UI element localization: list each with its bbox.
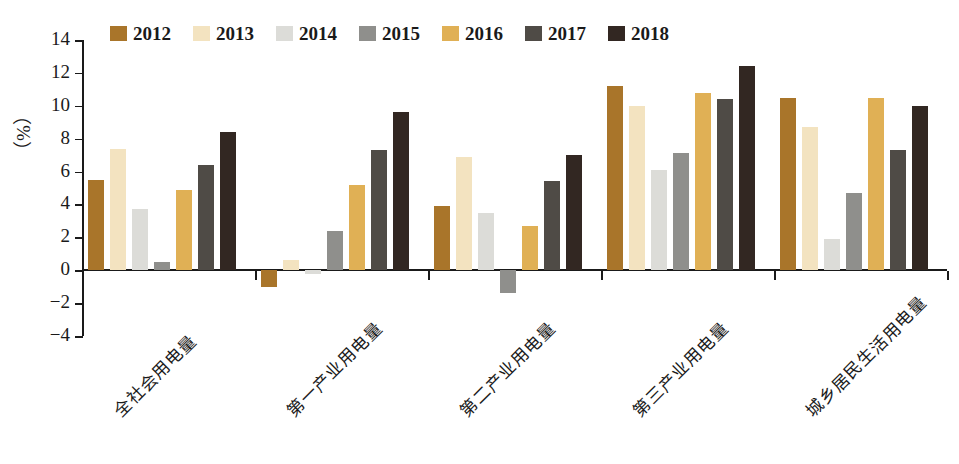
legend-swatch-icon (608, 26, 625, 41)
bar-2017-4 (717, 99, 733, 270)
bar-2014-4 (651, 170, 667, 270)
bar-2012-4 (607, 86, 623, 270)
y-tick-label: −2 (30, 291, 70, 313)
bar-2012-2 (261, 270, 277, 286)
bar-2015-5 (846, 193, 862, 270)
legend-swatch-icon (442, 26, 459, 41)
bar-2013-2 (283, 260, 299, 270)
bar-2015-4 (673, 153, 689, 270)
y-tick-label: −4 (30, 324, 70, 346)
bar-2018-1 (220, 132, 236, 270)
bar-2016-3 (522, 226, 538, 270)
bar-2017-3 (544, 181, 560, 270)
bar-2016-1 (176, 190, 192, 271)
bar-2013-1 (110, 149, 126, 271)
bar-2013-4 (629, 106, 645, 270)
legend-swatch-icon (110, 26, 127, 41)
bar-2018-5 (912, 106, 928, 270)
x-tick-mark (947, 271, 949, 280)
bar-2017-5 (890, 150, 906, 270)
y-tick-label: 14 (30, 28, 70, 50)
bar-2012-3 (434, 206, 450, 270)
y-tick-label: 10 (30, 94, 70, 116)
y-axis-title: （%） (8, 106, 35, 160)
bar-2014-3 (478, 213, 494, 271)
y-tick-label: 0 (30, 258, 70, 280)
bar-2018-2 (393, 112, 409, 270)
bar-2017-1 (198, 165, 214, 270)
bar-2017-2 (371, 150, 387, 270)
bar-2016-5 (868, 98, 884, 271)
bar-2018-3 (566, 155, 582, 270)
legend-swatch-icon (525, 26, 542, 41)
bar-2016-2 (349, 185, 365, 271)
bar-2014-5 (824, 239, 840, 270)
bar-2014-1 (132, 209, 148, 270)
legend-swatch-icon (193, 26, 210, 41)
bar-2018-4 (739, 66, 755, 270)
y-tick-label: 6 (30, 160, 70, 182)
y-tick-label: 4 (30, 192, 70, 214)
legend-swatch-icon (359, 26, 376, 41)
category-label-1: 全社会用电量 (107, 328, 201, 422)
y-tick-label: 12 (30, 61, 70, 83)
bar-2015-3 (500, 270, 516, 293)
bar-chart: 2012201320142015201620172018 14121086420… (0, 0, 959, 464)
bar-2016-4 (695, 93, 711, 271)
bar-2014-2 (305, 270, 321, 274)
bar-2012-1 (88, 180, 104, 270)
plot-area (82, 40, 947, 336)
bar-2015-2 (327, 231, 343, 270)
bar-2012-5 (780, 98, 796, 271)
y-tick-label: 2 (30, 225, 70, 247)
y-tick-mark (75, 336, 83, 338)
y-tick-label: 8 (30, 127, 70, 149)
legend-swatch-icon (276, 26, 293, 41)
bar-2013-3 (456, 157, 472, 270)
bar-2015-1 (154, 262, 170, 270)
bar-2013-5 (802, 127, 818, 270)
